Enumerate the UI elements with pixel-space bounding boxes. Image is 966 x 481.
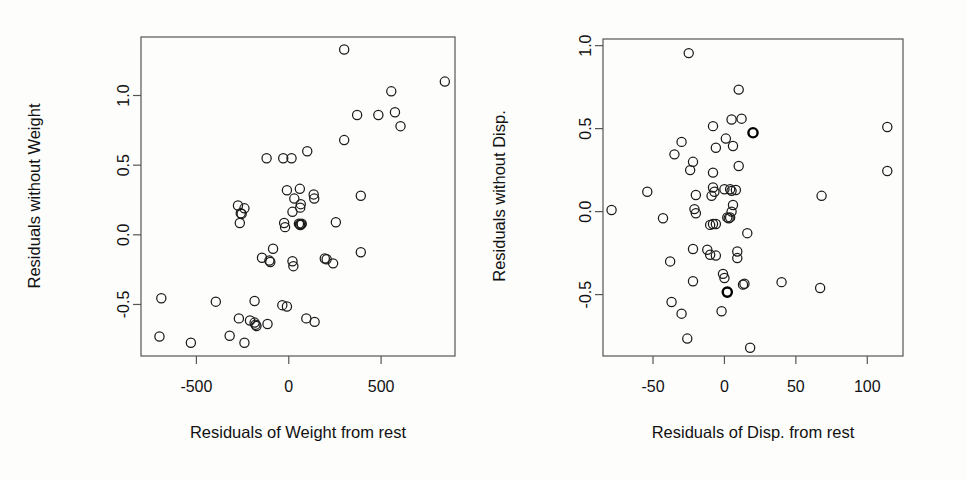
x-tick-label: 0 — [720, 378, 729, 395]
y-tick-label: -0.5 — [115, 291, 132, 319]
data-point — [340, 45, 349, 54]
data-point — [288, 207, 297, 216]
data-point — [440, 77, 449, 86]
data-point — [728, 200, 737, 209]
y-tick-label: -0.5 — [577, 281, 594, 309]
data-point — [677, 137, 686, 146]
data-point — [295, 184, 304, 193]
data-point — [356, 248, 365, 257]
data-point — [721, 134, 730, 143]
data-point — [658, 214, 667, 223]
data-point — [723, 288, 732, 297]
data-point — [733, 253, 742, 262]
data-point — [328, 259, 337, 268]
x-tick-label: -50 — [641, 378, 664, 395]
data-point — [670, 150, 679, 159]
data-points — [155, 45, 450, 347]
data-point — [737, 114, 746, 123]
x-tick-label: 100 — [854, 378, 881, 395]
axis-ticks — [595, 46, 867, 364]
data-point — [677, 309, 686, 318]
data-point — [263, 319, 272, 328]
data-point — [186, 338, 195, 347]
data-point — [727, 115, 736, 124]
data-point — [746, 343, 755, 352]
data-point — [691, 190, 700, 199]
data-point — [734, 85, 743, 94]
x-tick-label: 50 — [787, 378, 805, 395]
data-point — [686, 166, 695, 175]
data-point — [303, 147, 312, 156]
data-point — [643, 187, 652, 196]
data-point — [250, 296, 259, 305]
y-tick-label: 0.5 — [115, 154, 132, 176]
data-point — [157, 294, 166, 303]
y-tick-label: 0.0 — [115, 224, 132, 246]
x-axis-title: Residuals of Disp. from rest — [652, 423, 855, 441]
x-tick-label: 500 — [368, 378, 395, 395]
data-point — [268, 244, 277, 253]
data-point — [734, 161, 743, 170]
data-point — [816, 283, 825, 292]
data-point — [262, 154, 271, 163]
data-point — [666, 257, 675, 266]
data-point — [667, 297, 676, 306]
data-point — [310, 317, 319, 326]
y-axis-title: Residuals without Weight — [25, 103, 43, 288]
scatter-plot-weight: -50005001.00.50.0-0.5 Residuals of Weigh… — [0, 0, 483, 481]
data-point — [684, 49, 693, 58]
panel-disp: -500501001.00.50.0-0.5 Residuals of Disp… — [483, 0, 966, 481]
data-point — [688, 244, 697, 253]
data-point — [711, 251, 720, 260]
data-point — [708, 122, 717, 131]
data-point — [234, 314, 243, 323]
data-point — [883, 166, 892, 175]
y-tick-label: 1.0 — [577, 34, 594, 56]
data-point — [235, 218, 244, 227]
y-tick-label: 1.0 — [115, 84, 132, 106]
data-point — [728, 141, 737, 150]
data-point — [688, 277, 697, 286]
data-point — [683, 334, 692, 343]
data-point — [748, 128, 757, 137]
data-point — [607, 205, 616, 214]
data-point — [390, 108, 399, 117]
scatter-plot-disp: -500501001.00.50.0-0.5 Residuals of Disp… — [483, 0, 966, 481]
data-point — [211, 297, 220, 306]
data-point — [711, 143, 720, 152]
data-point — [331, 218, 340, 227]
data-point — [387, 87, 396, 96]
data-point — [708, 168, 717, 177]
data-point — [883, 122, 892, 131]
data-point — [340, 135, 349, 144]
data-point — [743, 229, 752, 238]
data-point — [282, 186, 291, 195]
y-axis-title: Residuals without Disp. — [490, 110, 508, 282]
axis-tick-labels: -50005001.00.50.0-0.5 — [115, 84, 394, 395]
data-point — [155, 332, 164, 341]
data-point — [225, 331, 234, 340]
x-axis-title: Residuals of Weight from rest — [190, 423, 407, 441]
y-tick-label: 0.5 — [577, 117, 594, 139]
x-tick-label: -500 — [180, 378, 212, 395]
figure-canvas: -50005001.00.50.0-0.5 Residuals of Weigh… — [0, 0, 966, 481]
data-points — [607, 49, 892, 353]
plot-frame — [603, 39, 903, 356]
data-point — [374, 110, 383, 119]
data-point — [817, 191, 826, 200]
data-point — [356, 191, 365, 200]
data-point — [353, 110, 362, 119]
data-point — [240, 338, 249, 347]
data-point — [717, 307, 726, 316]
data-point — [396, 122, 405, 131]
panel-weight: -50005001.00.50.0-0.5 Residuals of Weigh… — [0, 0, 483, 481]
y-tick-label: 0.0 — [577, 200, 594, 222]
data-point — [777, 278, 786, 287]
x-tick-label: 0 — [284, 378, 293, 395]
